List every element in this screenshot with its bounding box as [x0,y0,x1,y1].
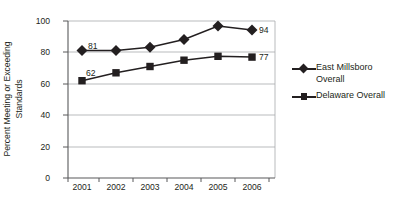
series-line-delaware-overall [82,56,252,80]
data-point-east-millsboro-2006 [246,24,257,35]
gridlines [68,52,275,147]
line-chart: Reading Performance Percent Meeting or E… [0,0,400,203]
diamond-marker-icon [292,63,316,74]
data-point-delaware-2002 [112,69,119,76]
data-point-east-millsboro-2003 [144,42,155,53]
y-axis-ticks [63,21,68,178]
square-marker-icon [292,91,316,102]
data-point-east-millsboro-2001 [76,45,87,56]
x-axis-ticks [68,178,269,182]
legend: East Millsboro Overall Delaware Overall [292,62,400,107]
data-point-delaware-2006 [248,53,255,60]
legend-label-east-millsboro-overall: East Millsboro Overall [316,62,373,85]
data-point-delaware-2005 [214,53,221,60]
series-markers-delaware-overall [78,53,255,85]
data-point-delaware-2004 [180,57,187,64]
legend-label-line-1: Delaware Overall [316,90,385,102]
data-point-east-millsboro-2005 [212,21,223,32]
series-line-east-millsboro-overall [82,26,252,50]
data-point-east-millsboro-2004 [178,34,189,45]
data-label-east-millsboro-2006: 94 [259,25,269,35]
legend-label-line-1: East Millsboro [316,62,373,74]
data-point-delaware-2001 [78,77,85,84]
data-label-east-millsboro-2001: 81 [88,41,98,51]
legend-item-delaware-overall[interactable]: Delaware Overall [292,90,400,102]
data-label-delaware-2001: 62 [86,68,96,78]
data-label-delaware-2006: 77 [259,52,269,62]
data-point-east-millsboro-2002 [110,45,121,56]
legend-label-delaware-overall: Delaware Overall [316,90,385,102]
legend-item-east-millsboro-overall[interactable]: East Millsboro Overall [292,62,400,85]
data-point-delaware-2003 [146,63,153,70]
legend-label-line-2: Overall [316,74,373,86]
